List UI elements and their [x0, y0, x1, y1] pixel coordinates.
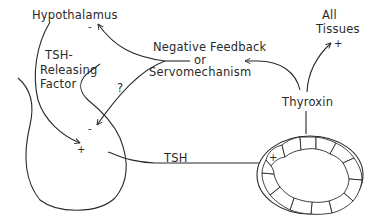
trf-label-line3: Factor	[40, 77, 76, 91]
thyroid-follicle: +	[257, 136, 363, 214]
thyroxin-to-feedback-arrow	[245, 61, 300, 90]
all-tissues-label-line2: Tissues	[315, 22, 360, 36]
thyroid-plus-sign: +	[269, 152, 277, 163]
feedback-label-line1: Negative Feedback	[153, 40, 267, 54]
thyroxin-to-tissues-arrow	[307, 43, 331, 92]
hypothalamus-minus-sign: -	[88, 21, 92, 32]
thyroxin-label: Thyroxin	[281, 95, 333, 109]
trf-label-line2: Releasing	[40, 63, 97, 77]
hypothalamus-label: Hypothalamus	[32, 8, 118, 22]
thyroid-feedback-diagram: Hypothalamus - TSH- Releasing Factor Neg…	[0, 0, 370, 221]
pituitary-minus-sign: -	[88, 123, 92, 134]
all-tissues-label-line1: All	[322, 8, 337, 22]
tissues-plus-sign: +	[334, 38, 342, 49]
feedback-label-line3: Servomechanism	[149, 65, 251, 79]
trf-label-line1: TSH-	[44, 48, 73, 62]
pituitary-plus-sign: +	[77, 144, 85, 155]
tsh-arrow	[108, 152, 268, 163]
